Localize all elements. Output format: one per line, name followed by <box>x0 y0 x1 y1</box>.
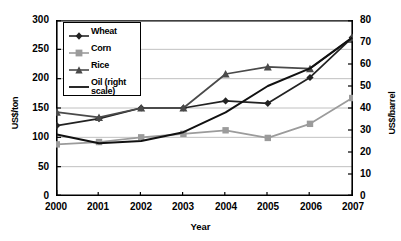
legend-label-oil: Oil (right scale) <box>90 78 137 95</box>
y-axis-left-tick-0: 0 <box>19 190 49 201</box>
wheat-series-icon <box>68 28 90 40</box>
y-axis-left-tick-250: 250 <box>19 43 49 54</box>
y-axis-right-tick-0: 0 <box>360 190 390 201</box>
x-axis-tick-2001: 2001 <box>75 201 121 212</box>
x-axis-tick-2000: 2000 <box>33 201 79 212</box>
data-point <box>56 141 60 147</box>
legend-label-rice: Rice <box>90 61 109 70</box>
y-axis-left-tick-50: 50 <box>19 161 49 172</box>
x-axis-tick-2005: 2005 <box>245 201 291 212</box>
oil-series-icon <box>68 79 90 91</box>
y-axis-right-tick-30: 30 <box>360 124 390 135</box>
legend-item-oil: Oil (right scale) <box>68 78 137 100</box>
rice-series-icon <box>68 62 90 74</box>
legend-label-corn: Corn <box>90 44 111 53</box>
data-point <box>265 135 271 141</box>
y-axis-right-tick-20: 20 <box>360 146 390 157</box>
y-axis-right-tick-80: 80 <box>360 14 390 25</box>
y-axis-left-tick-300: 300 <box>19 14 49 25</box>
y-axis-right-tick-60: 60 <box>360 58 390 69</box>
data-point <box>56 122 60 129</box>
legend-item-corn: Corn <box>68 44 137 60</box>
chart-legend: Wheat Corn Rice <box>63 22 141 96</box>
y-axis-left-tick-100: 100 <box>19 131 49 142</box>
x-axis-tick-2003: 2003 <box>160 201 206 212</box>
x-axis-tick-2002: 2002 <box>118 201 164 212</box>
y-axis-right-tick-50: 50 <box>360 80 390 91</box>
y-axis-left-tick-150: 150 <box>19 102 49 113</box>
x-axis-tick-2007: 2007 <box>330 201 376 212</box>
data-point <box>349 95 353 101</box>
data-point <box>222 97 229 104</box>
y-axis-right-tick-70: 70 <box>360 36 390 47</box>
x-axis-tick-2004: 2004 <box>203 201 249 212</box>
data-point <box>307 121 313 127</box>
y-axis-right-tick-10: 10 <box>360 168 390 179</box>
data-point <box>222 127 228 133</box>
y-axis-right-tick-40: 40 <box>360 102 390 113</box>
legend-item-rice: Rice <box>68 61 137 77</box>
corn-series-icon <box>68 45 90 57</box>
commodity-price-chart: US$/ton US$/barrel Year 300 250 200 150 … <box>0 0 401 241</box>
x-axis-title: Year <box>0 221 401 232</box>
legend-label-wheat: Wheat <box>90 27 117 36</box>
x-axis-tick-2006: 2006 <box>288 201 334 212</box>
legend-item-wheat: Wheat <box>68 27 137 43</box>
y-axis-left-tick-200: 200 <box>19 72 49 83</box>
